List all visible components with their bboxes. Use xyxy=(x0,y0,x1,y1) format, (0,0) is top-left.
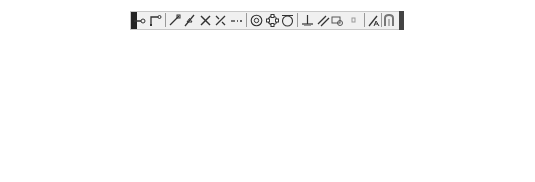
snap-apparent-intersect-button[interactable] xyxy=(213,12,227,28)
endpoint-icon xyxy=(168,14,181,27)
quadrant-icon xyxy=(266,14,279,27)
snap-quadrant-button[interactable] xyxy=(265,12,279,28)
toolbar-separator xyxy=(165,13,166,27)
snap-none-icon xyxy=(383,14,396,27)
snap-parallel-button[interactable] xyxy=(316,12,330,28)
temporary-track-point-button[interactable] xyxy=(132,12,146,28)
snap-node-button[interactable] xyxy=(346,12,360,28)
parallel-icon xyxy=(317,14,330,27)
snap-extension-button[interactable] xyxy=(229,12,243,28)
toolbar-separator xyxy=(364,13,365,27)
snap-midpoint-button[interactable] xyxy=(182,12,196,28)
apparent-intersect-icon xyxy=(214,14,227,27)
perpendicular-icon xyxy=(301,14,314,27)
track-point-icon xyxy=(133,14,146,27)
toolbar-separator xyxy=(246,13,247,27)
tangent-icon xyxy=(281,14,294,27)
insert-icon xyxy=(331,14,344,27)
snap-from-button[interactable] xyxy=(148,12,162,28)
node-icon xyxy=(347,14,360,27)
snap-intersection-button[interactable] xyxy=(198,12,212,28)
extension-icon xyxy=(230,14,243,27)
toolbar-separator xyxy=(297,13,298,27)
snap-nearest-button[interactable] xyxy=(367,12,381,28)
snap-insert-button[interactable] xyxy=(330,12,344,28)
center-icon xyxy=(250,14,263,27)
snap-tangent-button[interactable] xyxy=(280,12,294,28)
snap-none-button[interactable] xyxy=(382,12,396,28)
snap-endpoint-button[interactable] xyxy=(167,12,181,28)
nearest-icon xyxy=(368,14,381,27)
midpoint-icon xyxy=(183,14,196,27)
toolbar-close-handle[interactable] xyxy=(399,11,404,30)
intersection-icon xyxy=(199,14,212,27)
snap-center-button[interactable] xyxy=(249,12,263,28)
snap-perpendicular-button[interactable] xyxy=(300,12,314,28)
snap-from-icon xyxy=(149,14,162,27)
